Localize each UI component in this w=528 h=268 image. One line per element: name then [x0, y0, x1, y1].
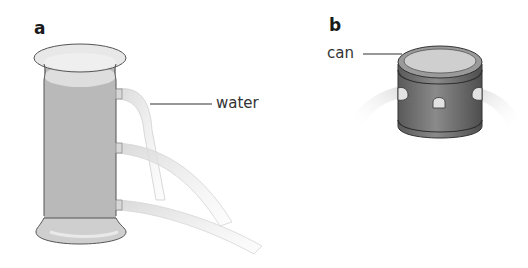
panel-label-b: b: [329, 17, 341, 34]
can-callout: can: [327, 46, 354, 61]
can-jet-right: [476, 88, 520, 126]
tall-cylinder: [34, 44, 262, 254]
diagram-artwork: [0, 0, 528, 268]
can: [350, 46, 520, 150]
can-jet-left: [350, 86, 404, 126]
water-callout: water: [216, 96, 259, 111]
panel-label-a: a: [34, 20, 45, 37]
jet-bottom: [116, 200, 262, 254]
